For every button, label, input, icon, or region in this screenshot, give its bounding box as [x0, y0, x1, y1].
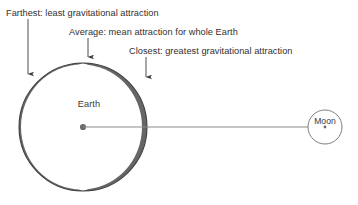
diagram-canvas: Earth Moon Farthest: least gravitational… — [0, 0, 358, 205]
earth-label: Earth — [78, 99, 100, 109]
moon-center-dot — [324, 126, 327, 129]
annotation-farthest: Farthest: least gravitational attraction — [6, 8, 159, 74]
annotation-closest: Closest: greatest gravitational attracti… — [129, 46, 292, 77]
annotation-farthest-label: Farthest: least gravitational attraction — [6, 8, 159, 18]
annotation-average-label: Average: mean attraction for whole Earth — [69, 27, 238, 37]
moon-group: Moon — [308, 110, 342, 144]
moon-label: Moon — [314, 116, 336, 126]
tidal-attraction-diagram: Earth Moon Farthest: least gravitational… — [0, 0, 358, 205]
annotation-closest-label: Closest: greatest gravitational attracti… — [129, 46, 292, 56]
